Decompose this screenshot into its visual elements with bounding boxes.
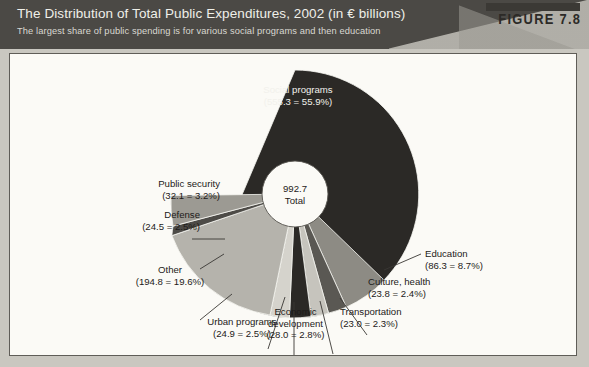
total-value: 992.7 xyxy=(283,183,307,194)
label-defense-value: (24.5 = 2.5%) xyxy=(70,221,200,233)
label-social-programs-name: Social programs xyxy=(263,84,332,95)
label-education-value: (86.3 = 8.7%) xyxy=(425,260,545,272)
label-other-value: (194.8 = 19.6%) xyxy=(110,276,230,288)
label-culture-health-name: Culture, health xyxy=(368,276,430,287)
label-education-name: Education xyxy=(425,248,468,259)
label-culture-health: Culture, health (23.8 = 2.4%) xyxy=(368,276,478,299)
figure-root: The Distribution of Total Public Expendi… xyxy=(0,0,589,367)
label-economic-development-value: (28.0 = 2.8%) xyxy=(253,329,338,341)
chart-area: Social programs (555.3 = 55.9%) Public s… xyxy=(10,54,576,355)
label-transportation: Transportation (23.0 = 2.3%) xyxy=(340,306,450,329)
page-title: The Distribution of Total Public Expendi… xyxy=(17,6,405,21)
label-social-programs: Social programs (555.3 = 55.9%) xyxy=(218,84,378,107)
label-education: Education (86.3 = 8.7%) xyxy=(425,248,545,271)
label-defense: Defense (24.5 = 2.5%) xyxy=(70,209,200,232)
total-caption: Total xyxy=(255,195,335,207)
label-culture-health-value: (23.8 = 2.4%) xyxy=(368,288,478,300)
donut-center-text: 992.7 Total xyxy=(255,183,335,206)
label-social-programs-value: (555.3 = 55.9%) xyxy=(218,96,378,108)
label-other-name: Other xyxy=(158,264,182,275)
label-public-security-value: (32.1 = 3.2%) xyxy=(80,190,220,202)
label-defense-name: Defense xyxy=(164,209,200,220)
figure-header: The Distribution of Total Public Expendi… xyxy=(0,0,589,49)
label-economic-development: Economic development (28.0 = 2.8%) xyxy=(253,306,338,341)
label-public-security: Public security (32.1 = 3.2%) xyxy=(80,178,220,201)
label-economic-development-name2: development xyxy=(253,318,338,330)
page-subtitle: The largest share of public spending is … xyxy=(17,26,381,36)
label-transportation-value: (23.0 = 2.3%) xyxy=(340,318,450,330)
chart-panel: Social programs (555.3 = 55.9%) Public s… xyxy=(9,53,577,356)
figure-badge-bar xyxy=(486,3,580,11)
label-economic-development-name: Economic xyxy=(274,306,316,317)
label-transportation-name: Transportation xyxy=(340,306,402,317)
figure-number-label: FIGURE 7.8 xyxy=(498,11,581,27)
label-public-security-name: Public security xyxy=(158,178,220,189)
label-other: Other (194.8 = 19.6%) xyxy=(110,264,230,287)
